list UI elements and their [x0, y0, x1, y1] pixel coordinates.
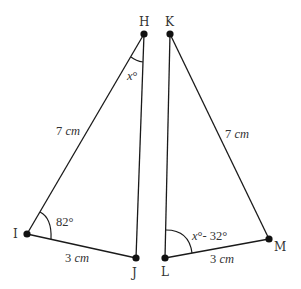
angle-i-label: 82°	[56, 215, 74, 229]
side-km-unit: cm	[234, 127, 249, 141]
label-i: I	[13, 227, 18, 241]
side-km-value: 7	[225, 127, 234, 141]
side-hj	[136, 34, 144, 258]
side-km	[170, 34, 269, 239]
vertex-k	[166, 30, 173, 37]
side-kl	[165, 34, 170, 258]
label-k: K	[165, 15, 175, 29]
side-hi	[27, 34, 144, 234]
label-h: H	[139, 15, 149, 29]
side-hi-label: 7 cm	[56, 124, 80, 138]
angle-arc-l	[166, 230, 192, 253]
side-ij-value: 3	[65, 251, 74, 265]
angle-l-expression: °- 32°	[198, 229, 228, 243]
vertex-h	[140, 30, 147, 37]
side-ij-unit: cm	[74, 251, 89, 265]
label-m: M	[274, 240, 286, 254]
angle-arc-h	[131, 57, 143, 62]
label-l: L	[161, 265, 169, 279]
label-j: J	[130, 266, 137, 280]
side-lm-unit: cm	[219, 252, 234, 266]
angle-arc-i	[40, 212, 51, 239]
side-lm-value: 3	[210, 252, 219, 266]
side-km-label: 7 cm	[225, 127, 249, 141]
side-lm-label: 3 cm	[210, 252, 234, 266]
angle-h-degree: °	[133, 69, 138, 83]
vertex-j	[132, 254, 139, 261]
side-hi-unit: cm	[65, 124, 80, 138]
vertex-m	[265, 235, 272, 242]
side-hi-value: 7	[56, 124, 65, 138]
vertex-i	[23, 230, 30, 237]
vertex-l	[161, 254, 168, 261]
side-ij-label: 3 cm	[65, 251, 89, 265]
geometry-diagram: H K I J L M 7 cm 3 cm 7 cm 3 cm 82° x° x…	[0, 0, 301, 289]
triangle-klm	[161, 30, 272, 261]
angle-l-label: x°- 32°	[191, 229, 227, 243]
triangle-hij	[23, 30, 147, 261]
angle-h-label: x°	[126, 69, 138, 83]
